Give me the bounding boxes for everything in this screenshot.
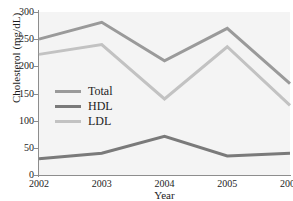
legend: TotalHDLLDL bbox=[55, 84, 139, 129]
x-tick-label: 2004 bbox=[145, 178, 185, 189]
legend-item-total: Total bbox=[55, 84, 139, 99]
y-tick-mark bbox=[34, 12, 38, 13]
x-axis-title: Year bbox=[39, 189, 290, 201]
legend-item-ldl: LDL bbox=[55, 114, 139, 129]
legend-swatch-total bbox=[55, 90, 81, 93]
x-tick-label: 2003 bbox=[82, 178, 122, 189]
series-line-hdl bbox=[39, 136, 290, 158]
legend-swatch-hdl bbox=[55, 105, 81, 108]
cholesterol-line-chart: Cholesterol (mg/dL) 050100150200250300 T… bbox=[0, 0, 293, 201]
y-tick-mark bbox=[34, 94, 38, 95]
legend-label: Total bbox=[88, 85, 113, 98]
y-tick-mark bbox=[34, 66, 38, 67]
legend-label: HDL bbox=[88, 100, 113, 113]
legend-swatch-ldl bbox=[55, 120, 81, 123]
y-tick-mark bbox=[34, 148, 38, 149]
series-line-total bbox=[39, 22, 290, 83]
y-tick-mark bbox=[34, 121, 38, 122]
legend-label: LDL bbox=[88, 115, 111, 128]
y-tick-mark bbox=[34, 175, 38, 176]
y-tick-mark bbox=[34, 39, 38, 40]
x-tick-label: 2006 bbox=[270, 178, 293, 189]
data-series-layer bbox=[0, 0, 293, 201]
x-tick-label: 2002 bbox=[19, 178, 59, 189]
legend-item-hdl: HDL bbox=[55, 99, 139, 114]
x-tick-label: 2005 bbox=[207, 178, 247, 189]
